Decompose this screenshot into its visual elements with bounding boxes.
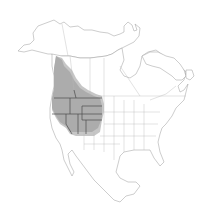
north-america-map xyxy=(0,0,211,222)
newfoundland-island xyxy=(186,70,194,80)
range-map: Range xyxy=(0,0,211,222)
